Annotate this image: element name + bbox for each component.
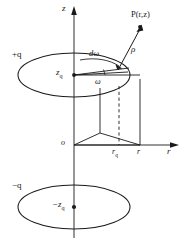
axis-group (71, 6, 179, 238)
source-charge-label: +q (12, 50, 22, 59)
field-point-label: P(r,z) (131, 10, 150, 19)
omega-angle-label: ω (95, 78, 101, 86)
d-omega-arrow-curve (80, 59, 119, 66)
rho-label: ρ (131, 45, 135, 54)
rq-tick-label: rq (112, 148, 118, 158)
rq-tick-subscript: q (115, 152, 118, 158)
origin-label: o (61, 139, 65, 147)
source-ring-center-marker (72, 73, 76, 77)
source-height-subscript: q (60, 73, 63, 79)
image-height-base: −z (52, 199, 62, 209)
image-ring-center-marker (72, 205, 76, 209)
r-axis-arrowhead (170, 142, 179, 147)
radius-ray-omega-upper (74, 68, 129, 75)
image-height-label: −zq (52, 200, 65, 211)
z-axis-arrowhead (71, 6, 77, 15)
wedge-base-right-edge (100, 133, 140, 145)
r-axis-label: r (167, 147, 171, 156)
figure-canvas: z r o +q −q zq −zq P(r,z) ρ ω dω rq r (0, 0, 187, 245)
angle-omega-arc (104, 70, 106, 76)
image-height-subscript: q (62, 205, 65, 211)
field-point-marker (138, 25, 142, 29)
source-height-label: zq (56, 68, 63, 79)
wedge-body (74, 79, 140, 145)
rho-line (118, 29, 140, 70)
wedge-base-left-edge (74, 133, 100, 145)
d-omega-label: dω (89, 49, 99, 58)
diagram-vector-layer (0, 0, 187, 245)
z-axis-label: z (62, 4, 66, 13)
image-charge-label: −q (12, 181, 22, 190)
r-tick-label: r (137, 148, 140, 156)
